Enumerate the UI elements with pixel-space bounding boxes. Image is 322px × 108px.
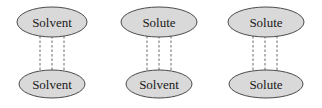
node-label: Solvent <box>139 77 179 92</box>
node-label: Solute <box>249 15 282 30</box>
interaction-diagram: Solvent Solvent Solute Solvent Solute <box>0 0 322 108</box>
top-node: Solute <box>228 7 304 37</box>
top-node: Solvent <box>17 7 87 37</box>
node-label: Solute <box>142 15 175 30</box>
pair-solute-solute: Solute Solute <box>228 7 304 98</box>
bottom-node: Solute <box>229 70 303 98</box>
node-label: Solvent <box>32 77 72 92</box>
bottom-node: Solvent <box>19 70 85 98</box>
node-label: Solute <box>249 77 282 92</box>
node-label: Solvent <box>32 15 72 30</box>
top-node: Solute <box>121 7 197 37</box>
pair-solute-solvent: Solute Solvent <box>121 7 197 98</box>
pair-solvent-solvent: Solvent Solvent <box>17 7 87 98</box>
bottom-node: Solvent <box>126 70 192 98</box>
